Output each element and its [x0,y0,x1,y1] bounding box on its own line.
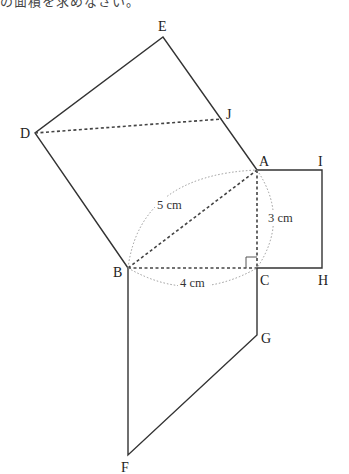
label-ac-length: 3 cm [268,211,293,225]
segment-ab [128,170,257,268]
vertex-label-a: A [259,154,270,169]
vertex-label-b: B [113,265,122,280]
right-angle-marker [246,257,257,268]
figure-bcgf-outline [128,268,257,455]
label-ab-length: 5 cm [157,198,182,212]
segment-dj [35,119,222,133]
vertex-label-d: D [20,126,30,141]
vertex-label-f: F [121,460,129,474]
square-abde-outline [35,37,257,268]
label-bc-length: 4 cm [180,276,205,290]
vertex-label-h: H [318,273,328,288]
vertex-label-i: I [318,154,323,169]
vertex-label-g: G [261,331,271,346]
geometry-diagram: 5 cm 4 cm 3 cm E D J A I B C H G F [0,0,349,474]
vertex-label-j: J [226,107,232,122]
vertex-label-e: E [158,19,167,34]
vertex-label-c: C [260,273,269,288]
